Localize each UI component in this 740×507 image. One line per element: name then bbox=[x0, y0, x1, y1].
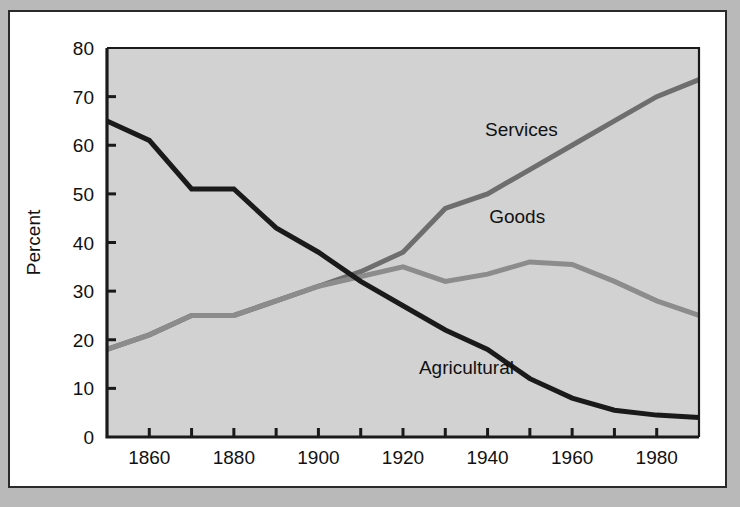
x-axis-tick-label: 1920 bbox=[382, 447, 424, 468]
y-axis-tick-label: 30 bbox=[73, 281, 94, 302]
x-axis-tick-label: 1960 bbox=[551, 447, 593, 468]
y-axis-title: Percent bbox=[23, 209, 44, 275]
y-axis-tick-label: 80 bbox=[73, 38, 94, 59]
y-axis-tick-label: 60 bbox=[73, 135, 94, 156]
series-annotation-goods: Goods bbox=[489, 206, 545, 227]
y-axis-tick-label: 0 bbox=[83, 427, 94, 448]
series-annotation-agricultural: Agricultural bbox=[419, 357, 514, 378]
y-axis-tick-label: 50 bbox=[73, 184, 94, 205]
screenshot-root: 0102030405060708018601880190019201940196… bbox=[0, 0, 740, 507]
y-axis-tick-label: 20 bbox=[73, 330, 94, 351]
series-annotation-services: Services bbox=[485, 119, 558, 140]
line-chart: 0102030405060708018601880190019201940196… bbox=[0, 0, 740, 507]
x-axis-tick-label: 1880 bbox=[213, 447, 255, 468]
x-axis-tick-label: 1980 bbox=[636, 447, 678, 468]
chart-figure: 0102030405060708018601880190019201940196… bbox=[0, 0, 740, 507]
y-axis-tick-label: 10 bbox=[73, 378, 94, 399]
y-axis-tick-label: 70 bbox=[73, 87, 94, 108]
y-axis-tick-label: 40 bbox=[73, 233, 94, 254]
plot-area-background bbox=[107, 48, 699, 437]
x-axis-tick-label: 1860 bbox=[128, 447, 170, 468]
x-axis-tick-label: 1940 bbox=[466, 447, 508, 468]
x-axis-tick-label: 1900 bbox=[297, 447, 339, 468]
